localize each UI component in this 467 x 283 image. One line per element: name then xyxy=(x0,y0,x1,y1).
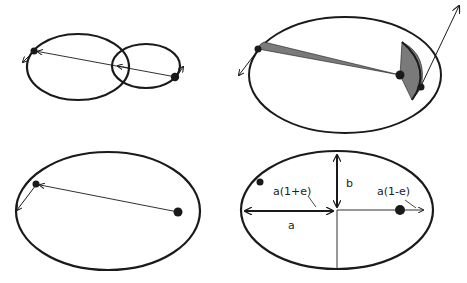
swept-area-aphelion xyxy=(258,42,400,75)
radius-vector xyxy=(40,185,178,212)
orbit-large xyxy=(27,34,129,100)
planet-perihelion xyxy=(418,84,425,91)
sun-focus xyxy=(174,208,183,217)
planet xyxy=(257,179,264,186)
sun-focus xyxy=(395,205,405,215)
label-aphelion: a(1+e) xyxy=(273,185,311,198)
planet xyxy=(33,181,40,188)
sun-focus xyxy=(396,71,405,80)
label-perihelion: a(1-e) xyxy=(377,185,410,198)
separation-vector xyxy=(38,52,176,78)
velocity-arrow xyxy=(17,185,36,210)
kepler-diagram: a(1+e) b a(1-e) a xyxy=(0,0,467,283)
perihelion-leader xyxy=(405,200,416,208)
panel-two-body-orbits xyxy=(23,34,183,100)
planet-aphelion xyxy=(255,46,262,53)
body-2 xyxy=(171,73,179,81)
panel-ellipse-geometry: a(1+e) b a(1-e) a xyxy=(241,151,433,269)
label-semi-major: a xyxy=(288,219,295,232)
panel-single-orbit xyxy=(16,152,200,270)
body-1 xyxy=(31,48,38,55)
panel-equal-areas xyxy=(239,6,459,133)
orbit-small xyxy=(112,44,180,88)
label-semi-minor: b xyxy=(346,177,353,190)
